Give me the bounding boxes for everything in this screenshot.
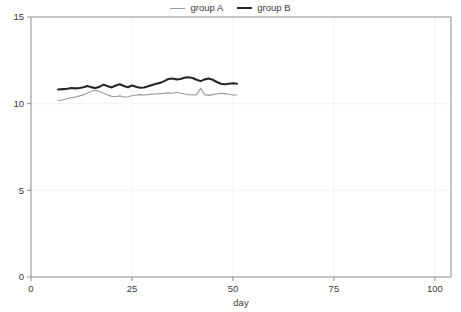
line-chart: group A group B 0510150255075100day [0, 0, 461, 312]
y-tick-label: 15 [13, 11, 24, 22]
x-tick-label: 0 [28, 283, 33, 294]
x-tick-label: 100 [427, 283, 443, 294]
plot-area: 0510150255075100day [0, 0, 461, 312]
y-tick-label: 5 [19, 185, 24, 196]
x-tick-label: 50 [228, 283, 239, 294]
x-tick-label: 25 [127, 283, 138, 294]
y-tick-label: 10 [13, 98, 24, 109]
x-axis-title: day [233, 297, 249, 308]
y-tick-label: 0 [19, 271, 24, 282]
x-tick-label: 75 [329, 283, 340, 294]
series-line-group-a [58, 88, 237, 100]
series-line-group-b [58, 77, 237, 89]
